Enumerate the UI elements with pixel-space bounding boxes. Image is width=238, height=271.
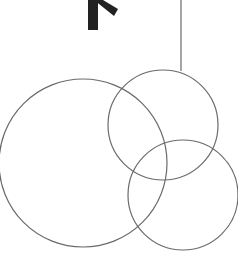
large-left-circle <box>0 79 167 247</box>
upper-right-circle <box>108 70 218 180</box>
venn-diagram <box>0 0 238 271</box>
lower-right-circle <box>128 140 238 250</box>
arrow-mark-icon <box>88 0 118 30</box>
